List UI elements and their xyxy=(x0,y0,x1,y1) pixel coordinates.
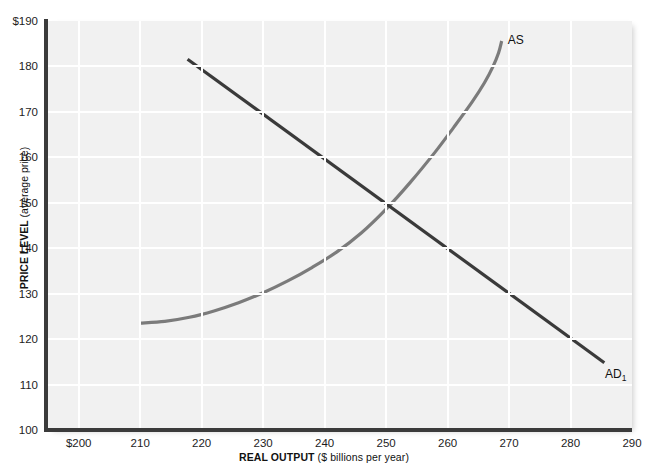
x-tick-label: $200 xyxy=(66,437,92,449)
y-axis-title: PRICE LEVEL (average price) xyxy=(18,98,30,338)
y-axis-title-rest: (average price) xyxy=(18,147,30,221)
as-curve-label: AS xyxy=(508,33,524,47)
y-axis-title-bold: PRICE LEVEL xyxy=(18,220,30,289)
x-axis-tick-labels: $200210220230240250260270280290 xyxy=(0,0,648,468)
x-axis-title: REAL OUTPUT ($ billions per year) xyxy=(0,451,648,463)
x-tick-label: 210 xyxy=(131,437,150,449)
x-tick-label: 240 xyxy=(315,437,334,449)
x-tick-label: 290 xyxy=(622,437,641,449)
x-tick-label: 230 xyxy=(254,437,273,449)
x-axis-title-rest: ($ billions per year) xyxy=(315,451,409,463)
ad-curve-label-subscript: 1 xyxy=(622,374,627,384)
x-tick-label: 250 xyxy=(377,437,396,449)
x-axis-title-bold: REAL OUTPUT xyxy=(239,451,315,463)
ad-as-chart: $190180170160150140130120110100 $2002102… xyxy=(0,0,648,468)
ad-curve-label: AD1 xyxy=(605,367,626,383)
x-tick-label: 260 xyxy=(438,437,457,449)
x-tick-label: 280 xyxy=(561,437,580,449)
x-tick-label: 220 xyxy=(192,437,211,449)
x-tick-label: 270 xyxy=(499,437,518,449)
